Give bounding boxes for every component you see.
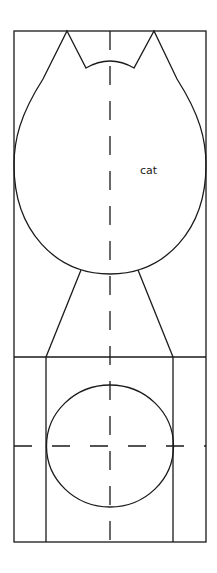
cat-label: cat — [140, 164, 158, 177]
neck-left-edge — [46, 270, 81, 357]
neck-right-edge — [138, 270, 173, 357]
cat-pattern-diagram: cat — [0, 0, 217, 573]
